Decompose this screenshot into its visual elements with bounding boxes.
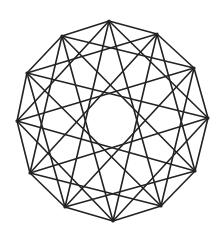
vertex-2 [155, 32, 158, 35]
vertex-6 [159, 204, 162, 207]
vertex-8 [63, 205, 66, 208]
star-polygon-diagram [0, 0, 220, 244]
vertex-5 [193, 169, 196, 172]
vertex-7 [111, 219, 114, 222]
vertex-9 [28, 171, 31, 174]
vertex-4 [206, 116, 209, 119]
vertex-11 [25, 71, 28, 74]
vertex-1 [107, 19, 110, 22]
vertex-12 [60, 34, 63, 37]
vertex-3 [192, 66, 195, 69]
vertex-10 [15, 119, 18, 122]
